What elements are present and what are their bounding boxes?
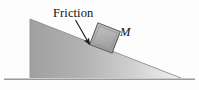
- diagram-canvas: [0, 0, 199, 90]
- physics-diagram-figure: Friction M: [0, 0, 199, 90]
